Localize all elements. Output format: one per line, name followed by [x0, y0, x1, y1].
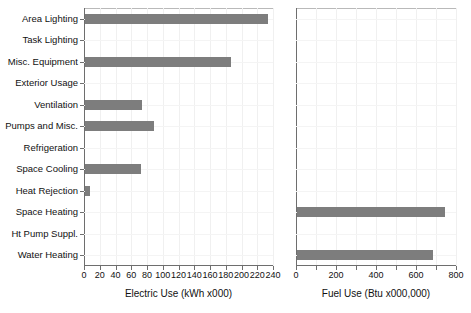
category-label: Exterior Usage [0, 78, 78, 88]
x-tick-label: 600 [401, 270, 431, 280]
x-tick-label: 400 [361, 270, 391, 280]
gridline-vertical [356, 8, 357, 266]
x-tick-label: 0 [281, 270, 311, 280]
x-tick-mark [316, 266, 317, 270]
electric-use-axis-title: Electric Use (kWh x000) [84, 288, 273, 299]
bar [297, 207, 445, 217]
bar [85, 186, 90, 196]
gridline-horizontal [84, 191, 273, 192]
gridline-horizontal [296, 234, 456, 235]
gridline-vertical [376, 8, 377, 266]
gridline-vertical [131, 8, 132, 266]
gridline-horizontal [84, 255, 273, 256]
x-tick-label: 200 [321, 270, 351, 280]
figure-canvas: Area LightingTask LightingMisc. Equipmen… [0, 0, 471, 313]
gridline-horizontal [84, 234, 273, 235]
electric-use-plot-area [84, 8, 273, 266]
gridline-vertical [436, 8, 437, 266]
x-tick-mark [436, 266, 437, 270]
electric-use-chart-panel: Area LightingTask LightingMisc. Equipmen… [0, 0, 283, 313]
category-label: Ventilation [0, 100, 78, 110]
gridline-horizontal [296, 105, 456, 106]
gridline-horizontal [84, 83, 273, 84]
bar [85, 57, 231, 67]
gridline-vertical [316, 8, 317, 266]
gridline-horizontal [296, 40, 456, 41]
gridline-vertical [396, 8, 397, 266]
gridline-vertical [147, 8, 148, 266]
gridline-horizontal [84, 212, 273, 213]
category-label: Pumps and Misc. [0, 121, 78, 131]
y-tick-mark [80, 105, 84, 106]
gridline-vertical [210, 8, 211, 266]
y-tick-mark [80, 234, 84, 235]
gridline-vertical [257, 8, 258, 266]
category-label: Space Cooling [0, 164, 78, 174]
gridline-horizontal [296, 83, 456, 84]
gridline-vertical [456, 8, 457, 266]
y-axis-line [84, 8, 85, 266]
y-tick-mark [80, 19, 84, 20]
bar [85, 100, 142, 110]
gridline-vertical [416, 8, 417, 266]
gridline-horizontal [296, 19, 456, 20]
gridline-vertical [100, 8, 101, 266]
y-tick-mark [80, 126, 84, 127]
y-tick-mark [80, 40, 84, 41]
bar [85, 164, 141, 174]
y-tick-mark [80, 148, 84, 149]
gridline-vertical [163, 8, 164, 266]
bar [85, 14, 268, 24]
bar [85, 121, 154, 131]
fuel-use-axis-title: Fuel Use (Btu x000,000) [296, 288, 456, 299]
fuel-use-chart-panel: 0200400600800 Fuel Use (Btu x000,000) [283, 0, 471, 313]
gridline-vertical [336, 8, 337, 266]
y-tick-mark [80, 62, 84, 63]
y-tick-mark [80, 83, 84, 84]
x-tick-mark [356, 266, 357, 270]
gridline-vertical [194, 8, 195, 266]
category-label: Heat Rejection [0, 186, 78, 196]
y-tick-mark [80, 169, 84, 170]
gridline-vertical [226, 8, 227, 266]
category-label: Ht Pump Suppl. [0, 229, 78, 239]
gridline-horizontal [296, 126, 456, 127]
gridline-vertical [242, 8, 243, 266]
gridline-horizontal [296, 169, 456, 170]
x-tick-label: 800 [441, 270, 471, 280]
y-tick-mark [80, 255, 84, 256]
gridline-horizontal [296, 148, 456, 149]
gridline-horizontal [84, 40, 273, 41]
gridline-vertical [116, 8, 117, 266]
y-tick-mark [80, 212, 84, 213]
x-tick-mark [396, 266, 397, 270]
fuel-use-plot-area [296, 8, 456, 266]
bar [297, 250, 433, 260]
category-label: Task Lighting [0, 35, 78, 45]
category-label: Refrigeration [0, 143, 78, 153]
gridline-horizontal [296, 62, 456, 63]
gridline-vertical [179, 8, 180, 266]
category-label: Water Heating [0, 250, 78, 260]
gridline-horizontal [84, 148, 273, 149]
category-label: Space Heating [0, 207, 78, 217]
category-label: Misc. Equipment [0, 57, 78, 67]
gridline-horizontal [296, 191, 456, 192]
gridline-vertical [273, 8, 274, 266]
y-axis-line [296, 8, 297, 266]
category-label: Area Lighting [0, 14, 78, 24]
y-tick-mark [80, 191, 84, 192]
